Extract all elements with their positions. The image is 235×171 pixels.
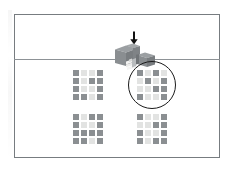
grid-cell-dark — [96, 69, 104, 77]
grid-cell-dark — [96, 77, 104, 85]
grid-cell-dark — [88, 77, 96, 85]
grid-cell-light — [88, 85, 96, 93]
grid-cell-light — [88, 69, 96, 77]
grid-cell-dark — [72, 121, 80, 129]
grid-cell-light — [80, 77, 88, 85]
grid-cell-light — [144, 121, 152, 129]
grid-cell-light — [144, 129, 152, 137]
option-b[interactable] — [136, 69, 168, 101]
grid-cell-dark — [72, 77, 80, 85]
grid-cell-dark — [80, 137, 88, 145]
figure-root — [0, 0, 235, 171]
grid-cell-light — [144, 69, 152, 77]
grid-cell-light — [136, 121, 144, 129]
stimulus-panel — [15, 15, 219, 59]
options-panel — [15, 60, 219, 157]
grid-cell-dark — [160, 121, 168, 129]
grid-cell-dark — [72, 93, 80, 101]
grid-cell-dark — [136, 93, 144, 101]
grid-cell-dark — [96, 129, 104, 137]
grid-cell-light — [80, 85, 88, 93]
grid-cell-light — [136, 77, 144, 85]
grid-cell-dark — [96, 121, 104, 129]
grid-cell-dark — [136, 69, 144, 77]
grid-cell-light — [144, 85, 152, 93]
grid-cell-dark — [136, 129, 144, 137]
grid-cell-dark — [72, 129, 80, 137]
option-c[interactable] — [72, 113, 104, 145]
grid-cell-dark — [160, 113, 168, 121]
grid-cell-light — [88, 121, 96, 129]
grid-cell-dark — [152, 137, 160, 145]
grid-cell-light — [144, 93, 152, 101]
grid-cell-light — [152, 93, 160, 101]
grid-cell-dark — [136, 137, 144, 145]
grid-cell-light — [152, 113, 160, 121]
option-a[interactable] — [72, 69, 104, 101]
option-a-grid — [72, 69, 104, 101]
grid-cell-light — [144, 137, 152, 145]
option-d-grid — [136, 113, 168, 145]
grid-cell-light — [152, 129, 160, 137]
grid-cell-dark — [72, 85, 80, 93]
scan-edge-artifact — [8, 10, 12, 160]
grid-cell-light — [152, 77, 160, 85]
grid-cell-dark — [96, 85, 104, 93]
grid-cell-dark — [160, 77, 168, 85]
grid-cell-dark — [136, 113, 144, 121]
grid-cell-dark — [72, 113, 80, 121]
grid-cell-dark — [88, 129, 96, 137]
grid-cell-dark — [88, 113, 96, 121]
option-d[interactable] — [136, 113, 168, 145]
grid-cell-dark — [160, 93, 168, 101]
grid-cell-dark — [72, 137, 80, 145]
grid-cell-dark — [160, 85, 168, 93]
grid-cell-dark — [96, 113, 104, 121]
grid-cell-dark — [152, 121, 160, 129]
grid-cell-light — [80, 69, 88, 77]
grid-cell-dark — [160, 137, 168, 145]
grid-cell-dark — [144, 77, 152, 85]
grid-cell-dark — [96, 137, 104, 145]
grid-cell-dark — [152, 85, 160, 93]
grid-cell-dark — [152, 69, 160, 77]
grid-cell-light — [80, 113, 88, 121]
grid-cell-dark — [72, 69, 80, 77]
option-c-grid — [72, 113, 104, 145]
grid-cell-dark — [80, 129, 88, 137]
grid-cell-dark — [160, 129, 168, 137]
grid-cell-dark — [96, 93, 104, 101]
grid-cell-dark — [80, 93, 88, 101]
grid-cell-light — [88, 93, 96, 101]
grid-cell-light — [160, 69, 168, 77]
option-b-grid — [136, 69, 168, 101]
grid-cell-light — [88, 137, 96, 145]
grid-cell-light — [80, 121, 88, 129]
grid-cell-light — [136, 85, 144, 93]
grid-cell-light — [144, 113, 152, 121]
